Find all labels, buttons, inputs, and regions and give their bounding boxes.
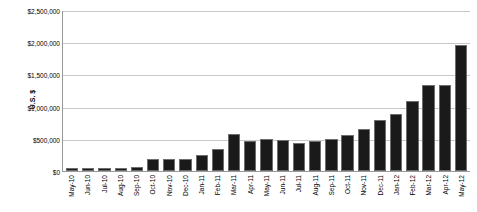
bar	[163, 159, 175, 171]
bar-slot	[258, 11, 274, 171]
bar	[358, 129, 370, 171]
bar	[147, 159, 159, 171]
x-axis-tick-labels: May-10Jun-10Jul-10Aug-10Sep-10Oct-10Nov-…	[62, 173, 470, 212]
x-tick-slot: Aug-11	[307, 173, 323, 212]
x-axis-tick-label: Sep-11	[327, 175, 334, 195]
bar-slot	[420, 11, 436, 171]
bar	[196, 155, 208, 171]
x-tick-slot: May-12	[453, 173, 469, 212]
x-axis-tick-label: Jan-12	[392, 175, 399, 195]
bar-slot	[113, 11, 129, 171]
x-axis-tick-label: Aug-11	[311, 175, 318, 195]
x-tick-slot: Feb-11	[209, 173, 225, 212]
bar-slot	[453, 11, 469, 171]
x-axis-tick-label: Oct-11	[344, 175, 351, 194]
bar	[455, 45, 467, 171]
x-axis-tick-label: Apr-11	[246, 175, 253, 194]
bar-slot	[275, 11, 291, 171]
bar-slot	[80, 11, 96, 171]
bar	[131, 167, 143, 171]
bar-slot	[307, 11, 323, 171]
bar	[244, 141, 256, 171]
bar-slot	[64, 11, 80, 171]
bar	[439, 85, 451, 171]
x-tick-slot: Aug-10	[112, 173, 128, 212]
bar	[212, 149, 224, 171]
x-axis-tick-label: Jun-11	[279, 175, 286, 194]
bar	[82, 168, 94, 171]
x-tick-slot: Sep-10	[128, 173, 144, 212]
bar	[293, 143, 305, 171]
x-tick-slot: Jun-10	[79, 173, 95, 212]
bar-chart-figure: U.S. $ $2,500,000$2,000,000$1,500,000$1,…	[0, 0, 477, 212]
x-tick-slot: Apr-12	[436, 173, 452, 212]
x-tick-slot: Oct-10	[144, 173, 160, 212]
bar	[406, 101, 418, 171]
x-tick-slot: Jan-11	[193, 173, 209, 212]
y-axis-tick-label: $1,500,000	[14, 72, 60, 79]
x-axis-tick-label: Dec-11	[376, 175, 383, 195]
bar	[260, 139, 272, 171]
x-axis-tick-label: May-11	[262, 175, 269, 196]
x-tick-slot: May-11	[258, 173, 274, 212]
x-tick-slot: Feb-12	[404, 173, 420, 212]
x-axis-tick-label: Apr-12	[441, 175, 448, 195]
bar-slot	[129, 11, 145, 171]
x-axis-tick-label: Dec-10	[181, 175, 188, 196]
x-axis-tick-label: Mar-11	[230, 175, 237, 195]
x-tick-slot: Dec-10	[177, 173, 193, 212]
y-axis-tick-label: $500,000	[14, 136, 60, 143]
bar-slot	[210, 11, 226, 171]
bar-slot	[242, 11, 258, 171]
x-tick-slot: Apr-11	[242, 173, 258, 212]
bar	[374, 120, 386, 171]
bar-slot	[404, 11, 420, 171]
x-tick-slot: Dec-11	[371, 173, 387, 212]
x-axis-tick-label: Feb-11	[214, 175, 221, 195]
bar	[422, 85, 434, 171]
x-axis-tick-label: Sep-10	[133, 175, 140, 196]
bar	[228, 134, 240, 171]
x-tick-slot: Nov-11	[355, 173, 371, 212]
bar-series	[63, 11, 470, 171]
bar-slot	[291, 11, 307, 171]
x-axis-tick-label: Oct-10	[149, 175, 156, 195]
bar	[277, 140, 289, 171]
x-axis-tick-label: Jul-10	[100, 175, 107, 193]
x-tick-slot: Nov-10	[160, 173, 176, 212]
x-axis-tick-label: Jun-10	[84, 175, 91, 195]
y-axis-tick-label: $1,000,000	[14, 104, 60, 111]
bar	[115, 168, 127, 171]
plot-area	[62, 11, 470, 172]
bar-slot	[161, 11, 177, 171]
x-axis-tick-label: May-10	[68, 175, 75, 197]
y-axis-tick-label: $2,000,000	[14, 40, 60, 47]
y-axis-tick-labels: $2,500,000$2,000,000$1,500,000$1,000,000…	[14, 0, 60, 212]
x-axis-tick-label: Jul-11	[295, 175, 302, 192]
x-tick-slot: Jul-10	[95, 173, 111, 212]
x-axis-tick-label: Aug-10	[116, 175, 123, 196]
x-tick-slot: Oct-11	[339, 173, 355, 212]
bar-slot	[323, 11, 339, 171]
bar-slot	[177, 11, 193, 171]
bar-slot	[372, 11, 388, 171]
bar-slot	[145, 11, 161, 171]
bar	[390, 114, 402, 171]
bar	[325, 139, 337, 171]
x-axis-tick-label: Mar-12	[425, 175, 432, 196]
bar-slot	[226, 11, 242, 171]
bar	[341, 135, 353, 171]
bar	[66, 168, 78, 171]
x-tick-slot: Sep-11	[323, 173, 339, 212]
bar-slot	[388, 11, 404, 171]
x-axis-tick-label: Jan-11	[197, 175, 204, 194]
bar	[98, 168, 110, 171]
x-tick-slot: Mar-12	[420, 173, 436, 212]
x-tick-slot: Jul-11	[290, 173, 306, 212]
x-axis-tick-label: Nov-10	[165, 175, 172, 196]
bar	[309, 141, 321, 171]
bar-slot	[339, 11, 355, 171]
bar	[179, 159, 191, 171]
bar-slot	[96, 11, 112, 171]
x-tick-slot: Mar-11	[225, 173, 241, 212]
